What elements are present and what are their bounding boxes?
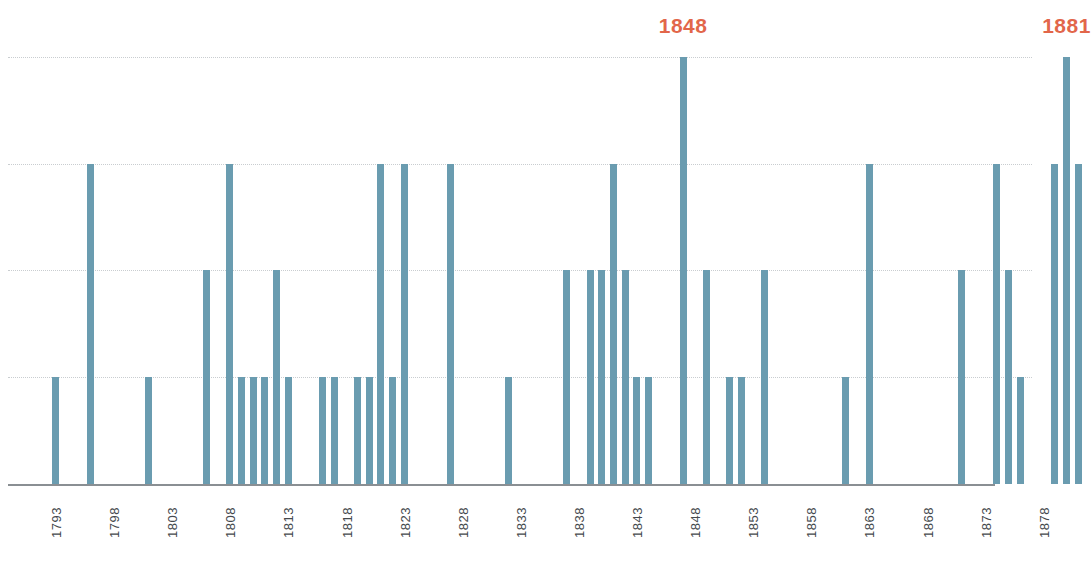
bar [842,377,849,484]
bar [366,377,373,484]
x-tick-label: 1868 [921,507,936,538]
x-tick-label: 1878 [1037,507,1052,538]
bar [389,377,396,484]
x-tick-label: 1813 [281,507,296,538]
bar [87,164,94,484]
bar [447,164,454,484]
bar [958,270,965,484]
bar [331,377,338,484]
bar [726,377,733,484]
bar [505,377,512,484]
x-tick-label: 1838 [572,507,587,538]
bar [203,270,210,484]
x-tick-label: 1858 [804,507,819,538]
bar [273,270,280,484]
bar [401,164,408,484]
x-tick-label: 1828 [456,507,471,538]
bar [761,270,768,484]
bar [377,164,384,484]
bar [1075,164,1082,484]
gridline [8,270,1032,271]
bar [703,270,710,484]
bar [1051,164,1058,484]
x-tick-label: 1833 [514,507,529,538]
x-tick-label: 1848 [688,507,703,538]
bar [645,377,652,484]
x-axis-line [8,484,995,486]
bar-chart: 18481881 1793179818031808181318181823182… [0,0,1092,568]
x-tick-label: 1873 [979,507,994,538]
plot-area [0,0,1092,500]
x-tick-label: 1803 [165,507,180,538]
bar [319,377,326,484]
bar [226,164,233,484]
bar [145,377,152,484]
x-tick-label: 1843 [630,507,645,538]
bar [622,270,629,484]
bar [587,270,594,484]
x-tick-label: 1853 [746,507,761,538]
bar [52,377,59,484]
gridline [8,57,1032,58]
x-tick-label: 1823 [398,507,413,538]
x-tick-label: 1798 [107,507,122,538]
x-tick-label: 1863 [862,507,877,538]
bar [598,270,605,484]
bar [993,164,1000,484]
bar [1063,57,1070,484]
gridline [8,377,1032,378]
bar [261,377,268,484]
x-tick-label: 1793 [49,507,64,538]
x-tick-label: 1818 [340,507,355,538]
bar [1005,270,1012,484]
bar [738,377,745,484]
bar [1017,377,1024,484]
x-tick-label: 1808 [223,507,238,538]
bar [563,270,570,484]
bar [250,377,257,484]
bar [238,377,245,484]
bar [633,377,640,484]
gridline [8,164,1032,165]
bar [866,164,873,484]
bar [610,164,617,484]
bar [285,377,292,484]
bar [680,57,687,484]
bar [354,377,361,484]
